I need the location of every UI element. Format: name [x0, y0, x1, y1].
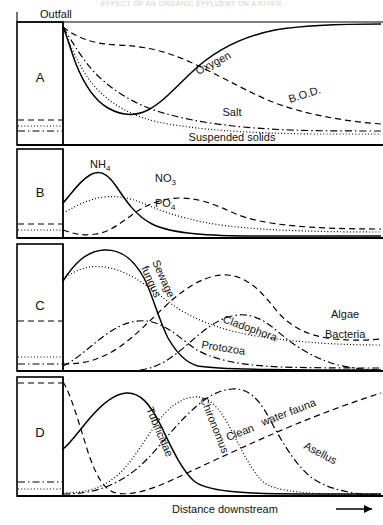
panel-d-letter: D [35, 425, 44, 440]
curve-po4 [63, 197, 381, 232]
panel-b: B NH4 NO3 PO4 [17, 149, 381, 238]
panel-a: A Oxygen B.O.D. Salt Suspended solids [17, 12, 383, 145]
label-salt: Salt [223, 106, 242, 118]
panel-b-letter: B [36, 185, 45, 200]
label-suspended-solids: Suspended solids [189, 131, 276, 143]
label-tubificidae: Tubificidae [144, 405, 176, 458]
panel-a-letter: A [36, 70, 45, 85]
label-nh4: NH4 [90, 158, 111, 173]
label-clean-water-fauna-line2: water fauna [258, 396, 318, 428]
label-po4: PO4 [155, 197, 176, 212]
curve-no3 [63, 198, 381, 235]
label-protozoa: Protozoa [201, 338, 247, 357]
label-chironomus: Chironomus [198, 395, 232, 455]
outfall-label: Outfall [40, 8, 72, 20]
label-clean-water-fauna-line1: Clean [224, 421, 255, 443]
label-bod: B.O.D. [287, 83, 322, 105]
figure-canvas: A Oxygen B.O.D. Salt Suspended solids B [0, 0, 383, 525]
panel-c-letter: C [35, 298, 44, 313]
label-bacteria: Bacteria [325, 328, 366, 340]
x-axis-label: Distance downstream [172, 503, 278, 515]
label-algae: Algae [331, 308, 359, 320]
curve-nh4 [63, 172, 381, 236]
curve-oxygen [63, 24, 381, 114]
label-oxygen: Oxygen [193, 49, 232, 77]
curve-cladophora [140, 315, 381, 370]
panel-c: C Sewage fungus Cladophora Protozoa Alga… [17, 244, 381, 371]
arrow-right-icon [336, 505, 372, 513]
label-asellus: Asellus [302, 439, 339, 466]
panel-d: D Tubificidae Chironomus Asellus Clean w… [17, 377, 381, 496]
river-pollution-figure: EFFECT OF AN ORGANIC EFFLUENT ON A RIVER… [0, 0, 383, 525]
label-cladophora: Cladophora [221, 313, 279, 344]
figure-title: EFFECT OF AN ORGANIC EFFLUENT ON A RIVER [0, 0, 383, 8]
label-no3: NO3 [155, 172, 177, 187]
